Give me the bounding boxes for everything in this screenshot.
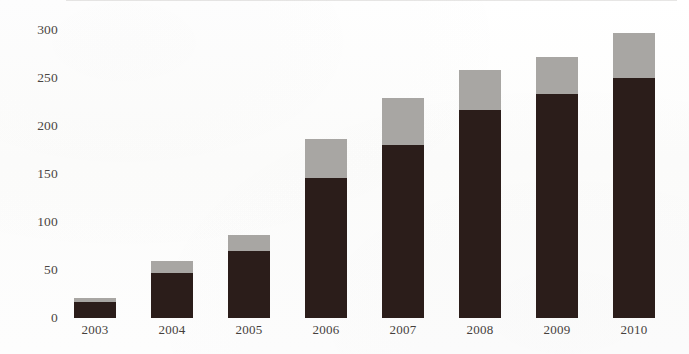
bar-segment-upper[interactable] — [459, 70, 501, 109]
x-axis-baseline — [66, 0, 677, 1]
bar-group[interactable]: 2009 — [536, 57, 578, 318]
stacked-bar-chart: 300250200150100500 200320042005200620072… — [0, 0, 689, 354]
bar-segment-lower[interactable] — [74, 302, 116, 318]
bar-group[interactable]: 2006 — [305, 139, 347, 318]
y-axis-tick-label: 150 — [14, 167, 58, 181]
x-axis-tick-label: 2009 — [543, 322, 570, 338]
bar-group[interactable]: 2005 — [228, 235, 270, 318]
y-axis-tick-label: 250 — [14, 71, 58, 85]
plot-area: 300250200150100500 200320042005200620072… — [0, 0, 689, 354]
bar-segment-upper[interactable] — [305, 139, 347, 177]
bar-segment-lower[interactable] — [613, 78, 655, 318]
bar-segment-upper[interactable] — [536, 57, 578, 94]
bar-segment-upper[interactable] — [228, 235, 270, 250]
bar-group[interactable]: 2003 — [74, 298, 116, 318]
bar-segment-upper[interactable] — [613, 33, 655, 78]
x-axis-tick-label: 2007 — [389, 322, 416, 338]
bar-group[interactable]: 2007 — [382, 98, 424, 318]
x-axis-tick-label: 2006 — [312, 322, 339, 338]
bar-group[interactable]: 2010 — [613, 33, 655, 318]
x-axis-tick-label: 2005 — [235, 322, 262, 338]
bar-group[interactable]: 2008 — [459, 70, 501, 318]
y-axis-tick-label: 300 — [14, 23, 58, 37]
x-axis-tick-label: 2004 — [158, 322, 185, 338]
bar-segment-upper[interactable] — [151, 261, 193, 273]
y-axis-tick-label: 50 — [14, 263, 58, 277]
bar-group[interactable]: 2004 — [151, 261, 193, 318]
y-axis-tick-label: 0 — [14, 311, 58, 325]
x-axis-tick-label: 2008 — [466, 322, 493, 338]
bar-segment-upper[interactable] — [382, 98, 424, 145]
bar-segment-upper[interactable] — [74, 298, 116, 302]
x-axis-tick-label: 2010 — [620, 322, 647, 338]
bar-segment-lower[interactable] — [228, 251, 270, 318]
bar-segment-lower[interactable] — [459, 110, 501, 318]
bar-segment-lower[interactable] — [305, 178, 347, 318]
bar-segment-lower[interactable] — [151, 273, 193, 318]
bar-segment-lower[interactable] — [536, 94, 578, 318]
x-axis-tick-label: 2003 — [81, 322, 108, 338]
y-axis-tick-label: 100 — [14, 215, 58, 229]
y-axis-tick-label: 200 — [14, 119, 58, 133]
bar-segment-lower[interactable] — [382, 145, 424, 318]
